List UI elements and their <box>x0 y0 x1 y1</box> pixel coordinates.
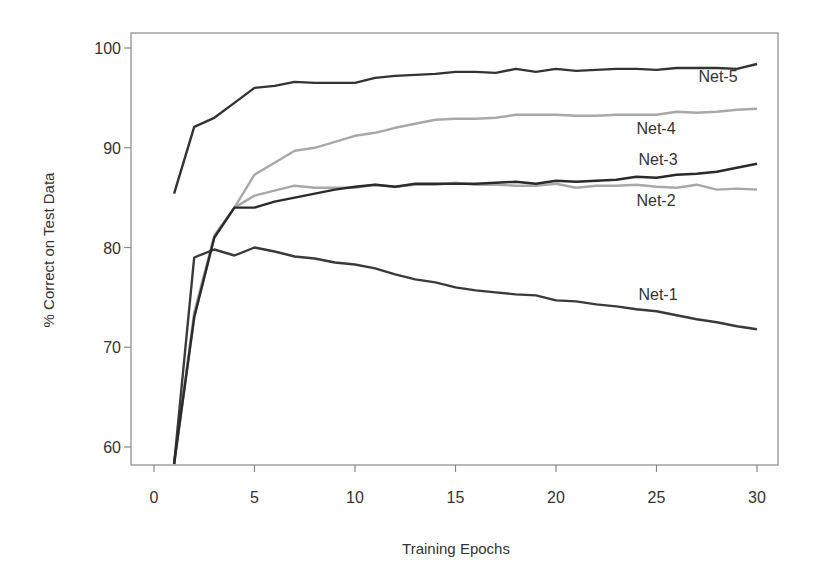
plot-frame <box>131 33 778 465</box>
x-axis: 051015202530 <box>150 465 766 506</box>
y-axis: 60708090100 <box>94 40 131 456</box>
y-tick-label: 100 <box>94 40 121 57</box>
x-axis-label: Training Epochs <box>402 540 510 557</box>
x-tick-label: 10 <box>346 489 364 506</box>
y-tick-label: 90 <box>103 140 121 157</box>
x-tick-label: 15 <box>447 489 465 506</box>
y-tick-label: 70 <box>103 339 121 356</box>
y-axis-label: % Correct on Test Data <box>40 172 57 327</box>
series-label-net-5: Net-5 <box>698 68 737 85</box>
series-label-net-2: Net-2 <box>636 192 675 209</box>
series-line-net-1 <box>174 248 757 465</box>
series-line-net-2 <box>174 183 757 464</box>
x-tick-label: 5 <box>250 489 259 506</box>
x-tick-label: 20 <box>547 489 565 506</box>
line-chart: 60708090100 051015202530 Net-1Net-2Net-3… <box>0 0 816 587</box>
x-tick-label: 30 <box>748 489 766 506</box>
series-label-net-1: Net-1 <box>638 286 677 303</box>
series-label-net-4: Net-4 <box>636 120 675 137</box>
y-tick-label: 60 <box>103 439 121 456</box>
x-tick-label: 25 <box>648 489 666 506</box>
series-label-net-3: Net-3 <box>638 151 677 168</box>
x-tick-label: 0 <box>150 489 159 506</box>
y-tick-label: 80 <box>103 240 121 257</box>
